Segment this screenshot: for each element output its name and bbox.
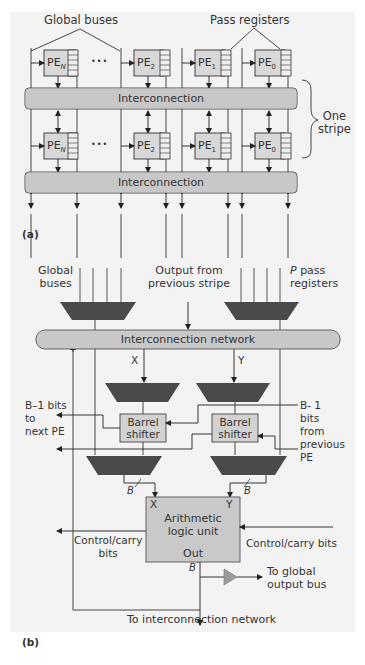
panel-label-b: (b) [22, 636, 39, 649]
global-bus-mux [60, 302, 136, 320]
pass-registers-label: Pass registers [210, 14, 289, 27]
pe-0-label-row1: PE0 [258, 56, 276, 74]
alu-x-port-label: X [150, 498, 157, 511]
x-input-label: X [131, 354, 138, 367]
interconnection-network-label: Interconnection network [36, 333, 340, 346]
pe-2-label-row1: PE2 [137, 56, 155, 74]
y-input-label: Y [238, 354, 244, 367]
output-prev-stripe-label: Output from previous stripe [148, 264, 230, 290]
pe-n-label-row2: PEN [47, 139, 66, 157]
pass-register-mux [224, 302, 299, 320]
panel-label-a: (a) [22, 228, 39, 241]
one-stripe-label: One stripe [318, 110, 351, 136]
alu-label: Arithmetic logic unit [146, 512, 240, 538]
global-buses-label: Global buses [44, 14, 118, 27]
pe-1-label-row2: PE1 [198, 139, 216, 157]
alu-out-label: Out [146, 547, 240, 560]
y-mux-top [196, 383, 270, 402]
pe-n-label-row1: PEN [47, 56, 66, 74]
x-mux-top [105, 383, 180, 402]
pe-0-label-row2: PE0 [258, 139, 276, 157]
pe-2-label-row2: PE2 [137, 139, 155, 157]
control-carry-left-label: Control/carry bits [74, 534, 142, 560]
b-width-out-label: B [189, 561, 196, 574]
b-minus-1-to-next-pe-label: B–1 bits to next PE [25, 399, 67, 438]
control-carry-right-label: Control/carry bits [246, 537, 337, 550]
pe-1-label-row1: PE1 [198, 56, 216, 74]
global-buses-b-label: Global buses [38, 264, 73, 290]
b-width-right-label: B [244, 484, 251, 497]
interconnection-label-2: Interconnection [25, 176, 297, 189]
interconnection-label-1: Interconnection [25, 92, 297, 105]
to-interconnection-network-label: To interconnection network [127, 613, 276, 626]
figure-canvas: Global buses Pass registers One stripe P… [0, 0, 365, 665]
p-pass-registers-label: P pass registers [290, 264, 338, 290]
b-width-left-label: B [127, 484, 134, 497]
ellipsis-row2: ••• [91, 138, 108, 151]
b-minus-1-from-previous-pe-label: B- 1 bits from previous PE [300, 399, 345, 464]
barrel-shifter-left-label: Barrel shifter [120, 416, 166, 440]
alu-y-port-label: Y [226, 498, 232, 511]
y-mux-bottom [210, 456, 287, 475]
to-global-output-bus-label: To global output bus [267, 565, 326, 591]
barrel-shifter-right-label: Barrel shifter [212, 416, 258, 440]
x-mux-bottom [86, 456, 162, 475]
ellipsis-row1: ••• [91, 55, 108, 68]
